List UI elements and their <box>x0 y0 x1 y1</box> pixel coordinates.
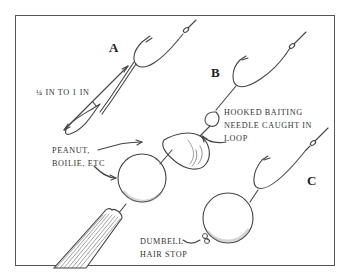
arrow-to-stop <box>183 240 200 243</box>
label-needle-line3: LOOP <box>224 133 248 145</box>
boilie-c-icon <box>203 193 253 243</box>
panel-label-a: A <box>109 40 118 56</box>
dumbell-hair-stop-icon <box>203 234 210 244</box>
label-bait-line2: BOILIE, ETC <box>52 158 105 170</box>
label-needle-line1: HOOKED BAITING <box>224 107 303 119</box>
label-stop-line1: DUMBELL <box>140 236 184 248</box>
baiting-needle-handle-icon <box>54 204 126 268</box>
label-stop-line2: HAIR STOP <box>140 249 187 261</box>
hair-rig-illustration <box>0 0 353 273</box>
arrow-to-peanut <box>98 142 142 150</box>
hook-c-icon <box>250 128 328 202</box>
panel-label-b: B <box>211 65 220 81</box>
label-measurement: ¼ IN TO 1 IN <box>36 87 90 99</box>
panel-label-c: C <box>307 173 316 189</box>
label-needle-line2: NEEDLE CAUGHT IN <box>224 120 312 132</box>
hook-a-icon <box>64 20 196 134</box>
boilie-bait-icon <box>118 150 172 202</box>
label-bait-line1: PEANUT, <box>52 145 90 157</box>
